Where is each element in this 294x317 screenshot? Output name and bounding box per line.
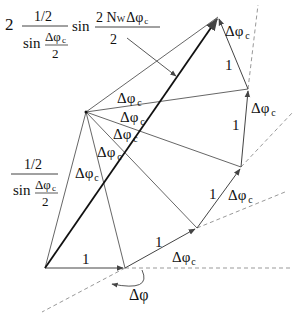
fan-label-4: Δφc (97, 144, 122, 162)
fan-label-5: Δφc (75, 165, 99, 183)
formula-top-arg-den: 2 (110, 32, 117, 47)
dashed-extensions (42, 5, 293, 312)
fan-label-2: Δφc (120, 109, 145, 127)
formula-left-den-num: Δφc (35, 177, 56, 193)
formula-left-num: 1/2 (24, 157, 42, 172)
fan-label-1: Δφc (117, 90, 142, 108)
formula-top: 2 1/2 sin Δφc 2 sin 2 NWΔφc 2 (5, 9, 160, 61)
formula-top-arg-num: 2 NWΔφc (96, 10, 148, 26)
diagram-canvas: Δφc Δφc Δφc Δφc Δφc Δφc Δφc Δφc Δφc Δφ 1… (0, 0, 294, 317)
unit-label-3: 1 (209, 186, 217, 202)
spoke-p5 (86, 17, 218, 112)
vector-4 (241, 91, 248, 167)
formula-top-sin: sin (72, 18, 90, 34)
formula-left: 1/2 sin Δφc 2 (11, 157, 58, 209)
fan-angle-labels: Δφc Δφc Δφc Δφc Δφc (75, 90, 145, 183)
formula-left-den-den: 2 (42, 194, 49, 209)
dashed-lower-left (42, 268, 125, 312)
turn-label-top: Δφc (225, 23, 250, 41)
turn-label-p3: Δφc (228, 187, 253, 205)
turn-label-p4: Δφc (251, 100, 276, 118)
unit-label-5: 1 (225, 57, 233, 73)
formula-top-num: 1/2 (34, 9, 52, 24)
turn-label-p2: Δφc (172, 249, 196, 267)
formula-left-den-sin: sin (13, 182, 31, 198)
delta-phi-label: Δφ (129, 286, 149, 304)
formula-pointer-arrow (127, 38, 176, 76)
phasor-diagram: Δφc Δφc Δφc Δφc Δφc Δφc Δφc Δφc Δφc Δφ 1… (0, 0, 294, 317)
unit-label-2: 1 (155, 234, 163, 250)
dashed-p3-ext (241, 112, 293, 167)
formula-top-coef: 2 (5, 15, 14, 34)
unit-label-1: 1 (82, 251, 90, 267)
unit-vectors (45, 19, 248, 268)
unit-label-4: 1 (232, 117, 240, 133)
hub-spokes (45, 17, 248, 268)
fan-label-3: Δφc (113, 126, 138, 144)
unit-length-labels: 1 1 1 1 1 (82, 57, 240, 267)
hub-point (85, 111, 88, 114)
formula-top-den-sin: sin (23, 35, 41, 51)
dashed-p4-ext (248, 5, 258, 89)
formula-top-den-den: 2 (52, 46, 59, 61)
formula-top-den-num: Δφc (45, 29, 66, 45)
